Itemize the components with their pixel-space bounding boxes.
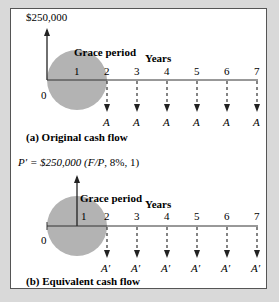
svg-text:A: A — [102, 116, 110, 128]
svg-text:A′: A′ — [220, 262, 231, 274]
svg-text:4: 4 — [164, 65, 170, 77]
origin-label: 0 — [41, 89, 47, 101]
arrow-up-icon — [44, 28, 50, 36]
svg-text:2: 2 — [104, 210, 110, 222]
svg-text:A: A — [162, 116, 170, 128]
svg-text:6: 6 — [224, 210, 230, 222]
years-label: Years — [145, 52, 172, 64]
origin-label: 0 — [41, 234, 47, 246]
svg-text:7: 7 — [254, 210, 260, 222]
arrow-down-icons — [104, 104, 260, 112]
svg-text:6: 6 — [224, 65, 230, 77]
years-label: Years — [145, 198, 172, 210]
caption-a: (a) Original cash flow — [26, 131, 128, 144]
formula: P′ = $250,000 (F/P, 8%, 1) — [17, 156, 139, 169]
payment-arrows — [107, 227, 257, 250]
svg-text:A′: A′ — [160, 262, 171, 274]
svg-text:3: 3 — [134, 65, 140, 77]
svg-text:5: 5 — [194, 210, 200, 222]
payment-arrows — [107, 81, 257, 104]
svg-text:A′: A′ — [190, 262, 201, 274]
svg-text:A′: A′ — [100, 262, 111, 274]
svg-text:1: 1 — [74, 65, 80, 77]
svg-text:4: 4 — [164, 210, 170, 222]
initial-amount: $250,000 — [26, 11, 68, 23]
svg-text:2: 2 — [104, 65, 110, 77]
panel-a: $250,000 Grace period Years 0 1 2 3 4 5 … — [26, 11, 260, 144]
svg-text:3: 3 — [134, 210, 140, 222]
grace-label: Grace period — [80, 192, 142, 204]
tick-labels: 1 2 3 4 5 6 7 — [81, 210, 260, 222]
arrow-up-icon — [74, 175, 80, 183]
svg-text:1: 1 — [81, 210, 87, 222]
svg-text:7: 7 — [254, 65, 260, 77]
cash-flow-diagram: $250,000 Grace period Years 0 1 2 3 4 5 … — [0, 0, 279, 302]
svg-text:A′: A′ — [130, 262, 141, 274]
svg-text:A: A — [252, 116, 260, 128]
svg-text:A: A — [192, 116, 200, 128]
caption-b: (b) Equivalent cash flow — [26, 275, 140, 288]
grace-label: Grace period — [74, 46, 136, 58]
svg-text:A: A — [222, 116, 230, 128]
panel-b: P′ = $250,000 (F/P, 8%, 1) Grace period … — [17, 156, 261, 288]
svg-text:5: 5 — [194, 65, 200, 77]
payment-labels: A′ A′ A′ A′ A′ A′ — [100, 262, 261, 274]
svg-text:A: A — [132, 116, 140, 128]
svg-text:A′: A′ — [250, 262, 261, 274]
payment-labels: A A A A A A — [102, 116, 260, 128]
arrow-down-icons — [104, 250, 260, 258]
